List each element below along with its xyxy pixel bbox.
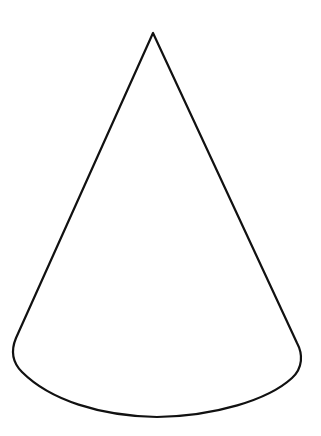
background xyxy=(0,0,321,436)
cone-diagram xyxy=(0,0,321,436)
